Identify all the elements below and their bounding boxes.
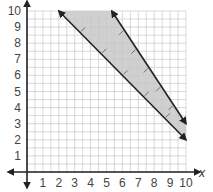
x-tick-label: 3 bbox=[71, 176, 78, 190]
y-tick-label: 10 bbox=[8, 4, 22, 18]
x-tick-label: 7 bbox=[135, 176, 142, 190]
x-tick-label: 10 bbox=[179, 176, 193, 190]
y-tick-label: 5 bbox=[14, 85, 21, 99]
x-tick-label: 8 bbox=[151, 176, 158, 190]
y-tick-label: 7 bbox=[14, 52, 21, 66]
x-tick-label: 4 bbox=[87, 176, 94, 190]
x-axis-label: x bbox=[198, 166, 206, 180]
y-tick-label: 3 bbox=[14, 117, 21, 131]
x-tick-label: 6 bbox=[119, 176, 126, 190]
y-tick-label: 4 bbox=[14, 101, 21, 115]
y-tick-label: 6 bbox=[14, 68, 21, 82]
grid bbox=[27, 11, 186, 172]
y-tick-label: 8 bbox=[14, 36, 21, 50]
inequality-graph: 1234567891012345678910 x bbox=[0, 0, 213, 192]
x-tick-label: 2 bbox=[55, 176, 62, 190]
y-tick-label: 1 bbox=[14, 149, 21, 163]
y-tick-label: 9 bbox=[14, 20, 21, 34]
y-tick-label: 2 bbox=[14, 133, 21, 147]
x-tick-label: 1 bbox=[40, 176, 47, 190]
x-tick-label: 9 bbox=[167, 176, 174, 190]
x-tick-label: 5 bbox=[103, 176, 110, 190]
